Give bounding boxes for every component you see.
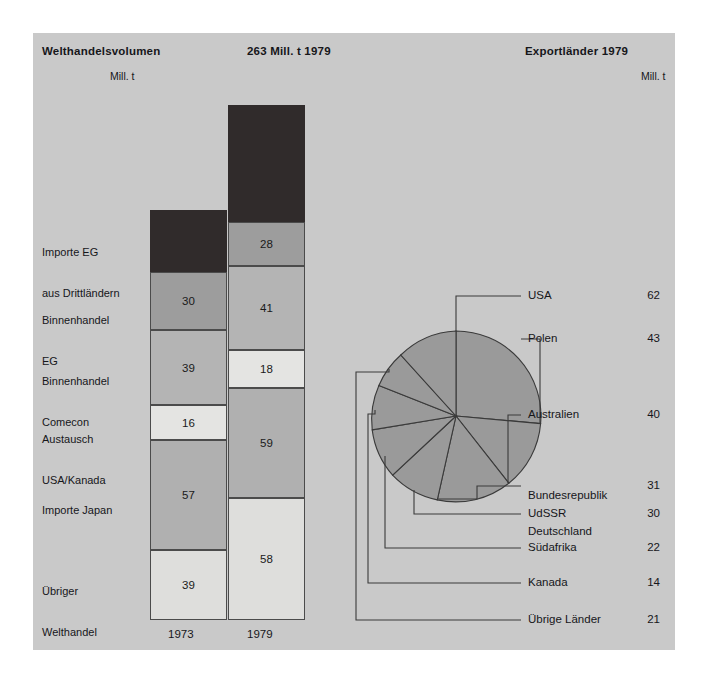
pie-legend-value-udssr: 30 (638, 507, 660, 519)
pie-legend-value-bundesrepublik-deutschland: 31 (638, 479, 660, 491)
pie-legend-value-uebrige-laender: 21 (638, 613, 660, 625)
pie-legend-label-usa: USA (528, 289, 552, 301)
figure-root: Welthandelsvolumen 263 Mill. t 1979 Expo… (0, 0, 704, 683)
pie-legend-label-australien: Australien (528, 408, 579, 420)
pie-legend-label-kanada: Kanada (528, 576, 568, 588)
pie-legend-value-kanada: 14 (638, 576, 660, 588)
pie-legend-label-uebrige-laender: Übrige Länder (528, 613, 601, 625)
pie-legend-label-suedafrika: Südafrika (528, 541, 577, 553)
pie-legend-label-line1: Bundesrepublik (528, 489, 607, 501)
pie-chart: USA 62 Polen 43 Australien 40 Bundesrepu… (0, 0, 704, 683)
pie-legend-value-australien: 40 (638, 408, 660, 420)
pie-legend-label-polen: Polen (528, 332, 557, 344)
pie-legend-value-suedafrika: 22 (638, 541, 660, 553)
pie-legend-value-usa: 62 (638, 289, 660, 301)
pie-legend-label-udssr: UdSSR (528, 507, 566, 519)
pie-legend-label-line2: Deutschland (528, 525, 607, 537)
pie-chart-svg (0, 0, 704, 683)
pie-legend-value-polen: 43 (638, 332, 660, 344)
leader-line-usa (456, 296, 521, 331)
